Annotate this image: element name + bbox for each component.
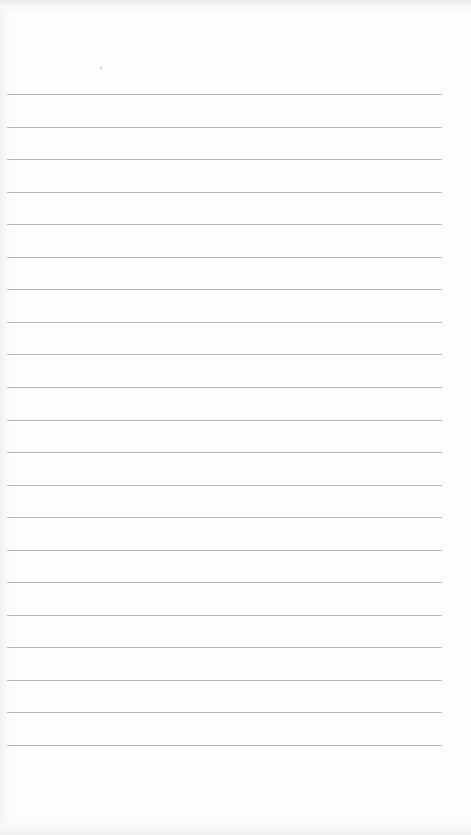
ruled-line: [7, 712, 442, 713]
ruled-line: [7, 127, 442, 128]
ruled-line: [7, 322, 442, 323]
ruled-line: [7, 680, 442, 681]
ruled-line: [7, 745, 442, 746]
ruled-line: [7, 192, 442, 193]
ruled-line: [7, 257, 442, 258]
ruled-line: [7, 224, 442, 225]
ruled-line: [7, 485, 442, 486]
ruled-line: [7, 159, 442, 160]
ruled-line: [7, 354, 442, 355]
ruled-line: [7, 582, 442, 583]
ruled-line: [7, 420, 442, 421]
lined-paper-sheet: [0, 0, 471, 835]
ruled-line: [7, 289, 442, 290]
ruled-line: [7, 647, 442, 648]
ruled-line: [7, 615, 442, 616]
ruled-line: [7, 94, 442, 95]
ruled-line: [7, 517, 442, 518]
ruled-line: [7, 452, 442, 453]
paper-speck: [100, 67, 102, 69]
ruled-line: [7, 550, 442, 551]
ruled-line: [7, 387, 442, 388]
